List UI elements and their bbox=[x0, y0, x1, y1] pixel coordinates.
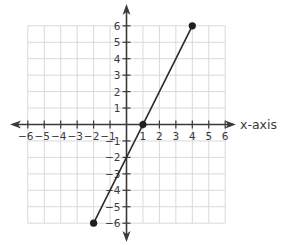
x-tick-label: −6 bbox=[18, 130, 34, 142]
data-point bbox=[189, 22, 196, 29]
x-tick-label: 5 bbox=[205, 130, 212, 142]
x-tick-label: 4 bbox=[189, 130, 196, 142]
data-point bbox=[139, 121, 146, 128]
y-tick-label: 6 bbox=[114, 20, 121, 32]
y-tick-label: 5 bbox=[114, 36, 121, 48]
x-tick-label: −5 bbox=[35, 130, 50, 142]
data-point bbox=[90, 220, 97, 227]
y-tick-label: 3 bbox=[114, 69, 121, 81]
y-tick-label: −1 bbox=[105, 135, 120, 147]
x-tick-label: −2 bbox=[84, 130, 99, 142]
x-tick-label: 6 bbox=[222, 130, 229, 142]
y-tick-label: 4 bbox=[114, 53, 121, 65]
y-tick-label: −6 bbox=[105, 217, 121, 229]
x-tick-label: −4 bbox=[51, 130, 67, 142]
y-tick-label: −5 bbox=[105, 201, 120, 213]
x-tick-label: 2 bbox=[156, 130, 163, 142]
x-tick-label: 3 bbox=[173, 130, 180, 142]
y-tick-label: −2 bbox=[105, 151, 120, 163]
y-tick-label: 2 bbox=[114, 86, 121, 98]
y-tick-label: 1 bbox=[114, 102, 121, 114]
x-tick-label: −3 bbox=[67, 130, 82, 142]
x-axis-label: x-axis bbox=[240, 117, 277, 132]
x-tick-label: 1 bbox=[140, 130, 147, 142]
coordinate-plane: −6−5−4−3−2−1123456−6−5−4−3−2−1123456 x-a… bbox=[0, 0, 282, 245]
